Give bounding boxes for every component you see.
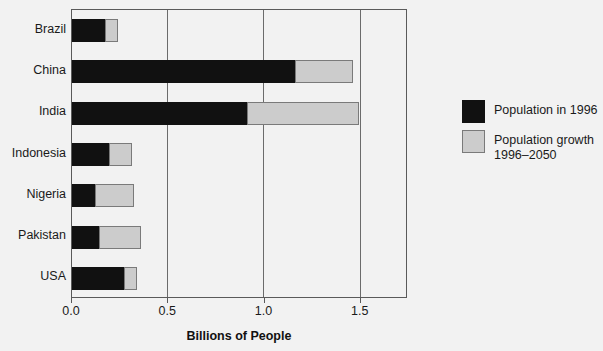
- gridline-1.5: [360, 10, 361, 297]
- x-tick-label-0.0: 0.0: [62, 304, 79, 318]
- category-label-india: India: [2, 105, 66, 118]
- x-tick-label-1.0: 1.0: [255, 304, 272, 318]
- x-tick-0.5: [167, 298, 168, 303]
- bar-chart-figure: BrazilChinaIndiaIndonesiaNigeriaPakistan…: [0, 0, 603, 351]
- category-label-nigeria: Nigeria: [2, 188, 66, 201]
- bar-segment-population-1996: [72, 267, 124, 290]
- legend-item: Population growth 1996–2050: [462, 130, 600, 163]
- bar-segment-population-1996: [72, 143, 109, 166]
- bar-segment-population-growth: [95, 184, 134, 207]
- bar-segment-population-growth: [295, 60, 353, 83]
- x-tick-1.5: [360, 298, 361, 303]
- legend-item: Population in 1996: [462, 100, 600, 123]
- bar-segment-population-growth: [247, 102, 359, 125]
- bar-segment-population-1996: [72, 184, 95, 207]
- bar-segment-population-growth: [124, 267, 137, 290]
- bar-segment-population-1996: [72, 226, 99, 249]
- bar-segment-population-growth: [109, 143, 132, 166]
- legend-label: Population in 1996: [494, 100, 598, 118]
- x-tick-0.0: [71, 298, 72, 303]
- category-label-china: China: [2, 64, 66, 77]
- x-tick-label-0.5: 0.5: [159, 304, 176, 318]
- gridline-1.0: [263, 10, 264, 297]
- category-label-pakistan: Pakistan: [2, 229, 66, 242]
- category-label-indonesia: Indonesia: [2, 147, 66, 160]
- category-axis-labels: BrazilChinaIndiaIndonesiaNigeriaPakistan…: [0, 9, 66, 298]
- bar-segment-population-1996: [72, 19, 105, 42]
- legend-swatch-icon: [462, 100, 485, 123]
- category-label-brazil: Brazil: [2, 23, 66, 36]
- bar-segment-population-growth: [105, 19, 118, 42]
- chart-legend: Population in 1996Population growth 1996…: [462, 100, 600, 170]
- legend-swatch-icon: [462, 130, 485, 153]
- x-axis-title: Billions of People: [71, 329, 407, 343]
- legend-label: Population growth 1996–2050: [494, 130, 594, 163]
- bar-segment-population-1996: [72, 102, 247, 125]
- bar-segment-population-growth: [99, 226, 141, 249]
- gridline-0.5: [167, 10, 168, 297]
- x-tick-label-1.5: 1.5: [351, 304, 368, 318]
- plot-area: [71, 9, 407, 298]
- bar-segment-population-1996: [72, 60, 295, 83]
- x-tick-1.0: [264, 298, 265, 303]
- category-label-usa: USA: [2, 270, 66, 283]
